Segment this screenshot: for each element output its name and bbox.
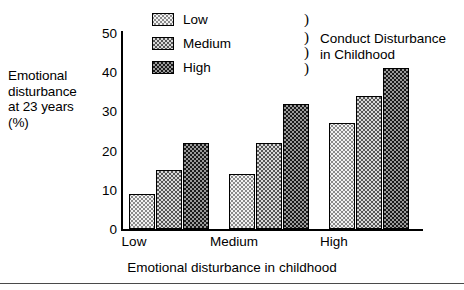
bar-medium-low	[229, 174, 255, 229]
legend-brace-glyph-4: )	[304, 61, 309, 76]
x-axis-line	[121, 229, 423, 231]
legend-label-low: Low	[183, 12, 208, 27]
legend-group-title-line-2: in Childhood	[320, 47, 446, 63]
legend-item-low: Low	[152, 10, 208, 28]
y-axis-ticks: 50 40 30 20 10 0	[84, 33, 117, 229]
y-tick-40: 40	[87, 65, 117, 80]
legend-item-high: High	[152, 58, 211, 76]
legend-swatch-high-icon	[152, 61, 174, 74]
legend-brace-glyph-2: )	[304, 30, 309, 45]
legend-group-title-line-1: Conduct Disturbance	[320, 31, 446, 47]
y-tick-10: 10	[87, 182, 117, 197]
bar-low-medium	[156, 170, 182, 229]
y-tick-30: 30	[87, 104, 117, 119]
bar-low-low	[129, 194, 155, 229]
legend-swatch-low-icon	[152, 13, 174, 26]
y-tick-50: 50	[87, 26, 117, 41]
legend-brace-glyph-3: )	[304, 45, 309, 60]
bar-high-low	[329, 123, 355, 229]
bar-medium-high	[283, 104, 309, 229]
legend-group-title: Conduct Disturbance in Childhood	[320, 31, 446, 63]
bottom-divider	[0, 283, 464, 284]
x-axis-title: Emotional disturbance in childhood	[0, 260, 464, 275]
x-tick-high: High	[289, 234, 379, 249]
y-tick-20: 20	[87, 143, 117, 158]
legend-item-medium: Medium	[152, 34, 231, 52]
legend-label-medium: Medium	[183, 36, 231, 51]
legend-swatch-medium-icon	[152, 37, 174, 50]
x-tick-medium: Medium	[189, 234, 279, 249]
legend-label-high: High	[183, 60, 211, 75]
bar-medium-medium	[256, 143, 282, 229]
legend-brace-glyph-1: )	[304, 12, 309, 27]
bar-high-high	[383, 68, 409, 229]
legend: Low Medium High ) ) ) ) Conduct Disturba…	[152, 10, 452, 80]
bar-high-medium	[356, 96, 382, 229]
bar-chart-figure: Emotional disturbance at 23 years (%) 50…	[0, 0, 464, 290]
bar-low-high	[183, 143, 209, 229]
x-tick-low: Low	[89, 234, 179, 249]
